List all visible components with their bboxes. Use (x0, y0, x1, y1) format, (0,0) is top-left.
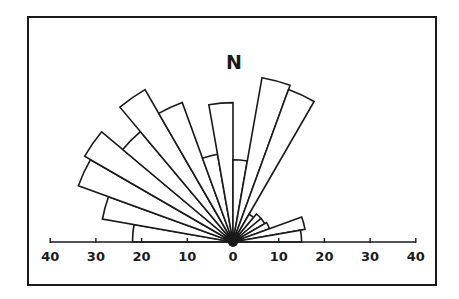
axis-tick-label: 40 (407, 249, 425, 264)
axis-tick-label: 20 (133, 249, 151, 264)
axis-tick-label: 10 (270, 249, 288, 264)
rose-diagram: 40302010010203040 N (0, 0, 459, 299)
axis-tick-label: 20 (315, 249, 333, 264)
radial-axis: 40302010010203040 (41, 238, 425, 264)
axis-tick-label: 0 (228, 249, 237, 264)
axis-tick-label: 30 (361, 249, 379, 264)
north-label: N (226, 51, 242, 73)
rose-petals (78, 78, 314, 242)
axis-tick-label: 40 (41, 249, 59, 264)
axis-tick-label: 30 (87, 249, 105, 264)
axis-tick-label: 10 (178, 249, 196, 264)
